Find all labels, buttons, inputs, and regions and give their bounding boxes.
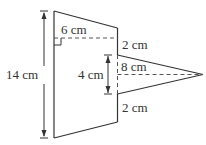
label-triangle-base: 4 cm — [78, 67, 104, 82]
right-angle-marker — [54, 38, 61, 45]
triangle-base-dimension-arrow — [104, 55, 112, 94]
trapezoid-bottom-slant — [54, 122, 118, 138]
label-triangle-height: 8 cm — [121, 59, 147, 74]
height-dimension-arrow — [40, 11, 48, 138]
label-top-gap: 2 cm — [122, 37, 148, 52]
label-height-total: 14 cm — [6, 67, 38, 82]
triangle-lower-side — [118, 75, 204, 95]
label-trapezoid-width: 6 cm — [61, 22, 87, 37]
composite-shape-diagram: 14 cm 6 cm 2 cm 4 cm 8 cm 2 cm — [0, 0, 206, 145]
label-bottom-gap: 2 cm — [122, 100, 148, 115]
